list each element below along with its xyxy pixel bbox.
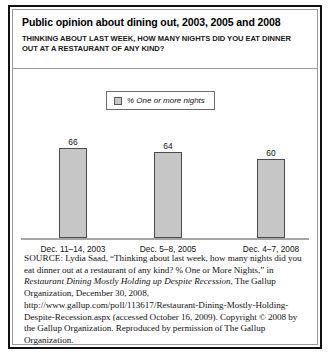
source-publication-title: Restaurant Dining Mostly Holding up Desp… [24, 276, 231, 286]
bar-group: 66 [59, 148, 87, 238]
source-label: SOURCE: [24, 253, 63, 263]
bar-series: 66 64 60 [13, 69, 317, 239]
bar-group: 64 [154, 152, 182, 238]
figure-title: Public opinion about dining out, 2003, 2… [22, 16, 308, 29]
figure-container: Public opinion about dining out, 2003, 2… [8, 5, 322, 349]
source-text-part-two: , The Gallup Organization, December 30, … [24, 276, 297, 345]
bar-group: 60 [257, 159, 285, 238]
x-axis-line [21, 238, 309, 240]
bar-value-label: 60 [266, 148, 275, 158]
bar-rect[interactable] [257, 159, 285, 238]
source-text-part-one: Lydia Saad, “Thinking about last week, h… [24, 253, 302, 275]
bar-value-label: 64 [163, 141, 172, 151]
source-note: SOURCE: Lydia Saad, “Thinking about last… [13, 253, 317, 347]
figure-inner-frame: Public opinion about dining out, 2003, 2… [12, 9, 318, 345]
bar-rect[interactable] [154, 152, 182, 238]
bar-rect[interactable] [59, 148, 87, 238]
figure-subtitle: THINKING ABOUT LAST WEEK, HOW MANY NIGHT… [22, 34, 308, 54]
figure-header: Public opinion about dining out, 2003, 2… [13, 10, 317, 59]
chart-plot-area: % One or more nights 66 64 60 Dec [13, 69, 317, 246]
bar-value-label: 66 [68, 137, 77, 147]
